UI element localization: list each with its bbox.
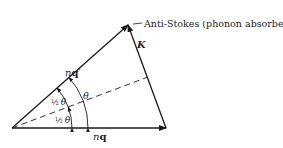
anti-stokes-label: Anti-Stokes (phonon absorbed) (143, 18, 283, 29)
half-lower-theta: θ (65, 115, 71, 125)
nq-prime-q: q (71, 67, 78, 78)
callout-leader (133, 23, 142, 24)
half-lower-frac: ½ (55, 116, 63, 125)
theta-label: θ (83, 90, 89, 101)
nq-prime-label: nq′ (65, 67, 81, 78)
half-theta-lower-label: ½θ (55, 115, 71, 125)
half-theta-upper-label: ½θ (51, 97, 67, 107)
half-upper-theta: θ (61, 97, 67, 107)
angle-bisector-dashed (12, 77, 148, 128)
half-upper-frac: ½ (51, 98, 59, 107)
nq-label: nq (93, 131, 106, 142)
wavevector-diagram: Anti-Stokes (phonon absorbed) K nq′ nq θ… (0, 0, 283, 148)
k-label: K (136, 39, 147, 50)
nq-q: q (99, 131, 106, 142)
nq-prime-prime: ′ (78, 67, 81, 78)
phonon-wavevector-k (128, 25, 166, 128)
